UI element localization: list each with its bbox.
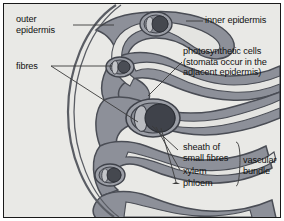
label-photosynthetic-cells: photosynthetic cells (stomata occur in t… xyxy=(183,46,267,78)
large-vascular-bundle xyxy=(126,99,180,137)
label-phloem: phloem xyxy=(183,178,213,189)
label-xylem: xylem xyxy=(183,166,207,177)
phloem-large xyxy=(145,104,175,132)
label-sheath-of-small-fibres: sheath of small fibres xyxy=(183,142,228,163)
small-vascular-bundle-top xyxy=(140,12,172,36)
small-vascular-bundle-lower xyxy=(95,164,125,186)
label-inner-epidermis: inner epidermis xyxy=(205,15,266,26)
leaf-cross-section-figure: outer epidermis fibres inner epidermis p… xyxy=(0,0,284,221)
label-vascular-bundle: vascular bundle xyxy=(243,155,276,176)
small-vascular-bundle-middle xyxy=(106,57,134,77)
label-outer-epidermis: outer epidermis xyxy=(16,14,55,35)
label-fibres: fibres xyxy=(16,61,38,72)
